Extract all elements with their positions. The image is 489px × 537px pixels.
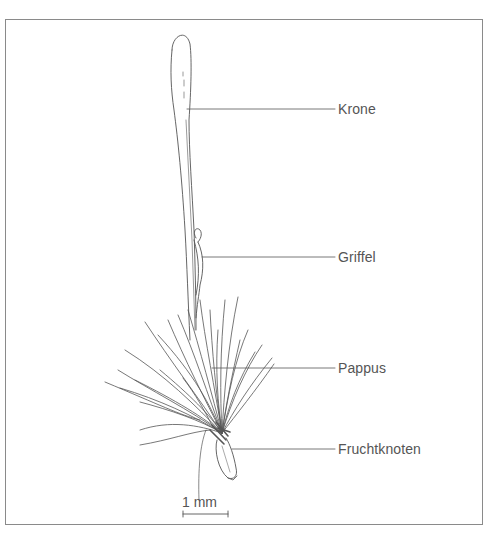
- label-pappus: Pappus: [338, 361, 386, 375]
- scale-bar: [183, 511, 228, 517]
- label-fruchtknoten: Fruchtknoten: [338, 442, 421, 456]
- trailing-bristle: [199, 430, 206, 500]
- label-krone: Krone: [338, 102, 376, 116]
- corolla-outline: [171, 35, 196, 340]
- pappus-bristles: [105, 297, 274, 445]
- label-griffel: Griffel: [338, 250, 376, 264]
- scale-bar-label: 1 mm: [182, 495, 217, 509]
- ovary-outline: [216, 438, 237, 480]
